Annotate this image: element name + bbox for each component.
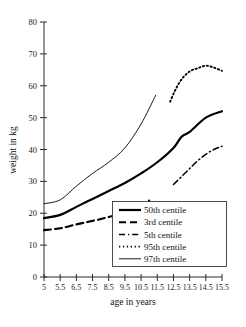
x-tick-label: 12.5 <box>166 283 180 292</box>
x-axis-title: age in years <box>110 297 156 307</box>
y-tick-label: 10 <box>29 240 38 250</box>
x-tick-label: 5 <box>42 283 46 292</box>
x-axis: 55.56.57.58.59.510.511.512.513.514.515.5 <box>42 274 229 292</box>
x-tick-label: 11.5 <box>150 283 164 292</box>
legend-label-3rd-centile: 3rd centile <box>144 217 182 227</box>
legend: 50th centile3rd centile5th centile95th c… <box>113 202 227 267</box>
x-tick-label: 14.5 <box>199 283 213 292</box>
x-tick-label: 6.5 <box>71 283 81 292</box>
y-tick-label: 50 <box>29 113 38 123</box>
series-line-95th-centile <box>170 66 222 102</box>
y-axis: 01020304050607080 <box>29 17 48 282</box>
y-axis-title: weight in kg <box>8 126 18 174</box>
y-tick-label: 70 <box>29 49 38 59</box>
y-tick-label: 0 <box>33 272 37 282</box>
y-tick-label: 30 <box>29 176 38 186</box>
y-tick-label: 80 <box>29 17 38 27</box>
y-tick-label: 60 <box>29 81 38 91</box>
x-tick-label: 7.5 <box>88 283 98 292</box>
x-tick-label: 5.5 <box>55 283 65 292</box>
legend-label-97th-centile: 97th centile <box>144 254 186 264</box>
legend-label-95th-centile: 95th centile <box>144 242 186 252</box>
x-tick-label: 13.5 <box>183 283 197 292</box>
x-tick-label: 10.5 <box>134 283 148 292</box>
series-line-5th-centile <box>173 146 222 184</box>
y-tick-label: 20 <box>29 208 38 218</box>
x-tick-label: 9.5 <box>120 283 130 292</box>
legend-label-50th-centile: 50th centile <box>144 205 186 215</box>
chart-figure: 01020304050607080 55.56.57.58.59.510.511… <box>0 0 246 327</box>
series-line-97th-centile <box>44 95 156 203</box>
legend-label-5th-centile: 5th centile <box>144 230 182 240</box>
growth-centile-chart: 01020304050607080 55.56.57.58.59.510.511… <box>0 0 246 327</box>
y-tick-label: 40 <box>29 145 38 155</box>
x-tick-label: 15.5 <box>215 283 229 292</box>
x-tick-label: 8.5 <box>104 283 114 292</box>
